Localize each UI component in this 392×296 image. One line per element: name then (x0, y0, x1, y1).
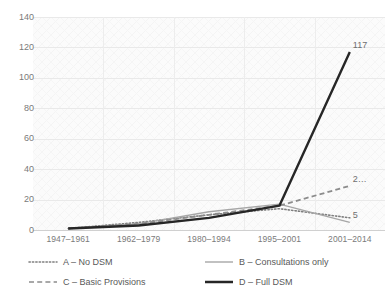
legend-key-solid-thick-icon (204, 277, 234, 287)
data-label-consultations-only: 5 (353, 210, 358, 220)
chart-container: 020406080100120140 117 2… 5 1947–1961196… (0, 0, 392, 296)
y-tick-label: 140 (6, 13, 34, 22)
x-tick-label: 1962–1979 (103, 234, 173, 248)
y-tick-label: 120 (6, 43, 34, 52)
legend-label-a: A – No DSM (63, 257, 113, 267)
legend-label-b: B – Consultations only (239, 257, 329, 267)
series-line-D (68, 52, 350, 228)
x-tick-label: 1947–1961 (33, 234, 103, 248)
x-axis-tick-labels: 1947–19611962–19791980–19941995–20012001… (33, 234, 385, 248)
legend-label-c: C – Basic Provisions (63, 277, 146, 287)
y-tick-label: 100 (6, 73, 34, 82)
y-tick-label: 40 (6, 165, 34, 174)
legend-row-2: C – Basic Provisions D – Full DSM (0, 272, 392, 292)
legend-key-dashed-icon (28, 277, 58, 287)
y-tick-label: 60 (6, 134, 34, 143)
legend-key-solid-thin-icon (204, 257, 234, 267)
x-tick-label: 2001–2014 (315, 234, 385, 248)
chart-legend: A – No DSM B – Consultations only C – Ba (0, 252, 392, 296)
legend-item-b-consultations-only[interactable]: B – Consultations only (204, 257, 364, 267)
data-label-full-dsm: 117 (353, 40, 367, 50)
legend-key-dotted-icon (28, 257, 58, 267)
y-tick-label: 20 (6, 195, 34, 204)
legend-item-d-full-dsm[interactable]: D – Full DSM (204, 277, 364, 287)
x-tick-label: 1995–2001 (244, 234, 314, 248)
legend-row-1: A – No DSM B – Consultations only (0, 252, 392, 272)
data-label-basic-provisions: 2… (353, 174, 367, 184)
legend-label-d: D – Full DSM (239, 277, 293, 287)
series-line-C (68, 186, 350, 229)
legend-item-c-basic-provisions[interactable]: C – Basic Provisions (28, 277, 178, 287)
y-tick-label: 80 (6, 104, 34, 113)
series-lines (33, 17, 385, 230)
y-tick-label: 0 (6, 226, 34, 235)
legend-item-a-no-dsm[interactable]: A – No DSM (28, 257, 178, 267)
x-tick-label: 1980–1994 (174, 234, 244, 248)
